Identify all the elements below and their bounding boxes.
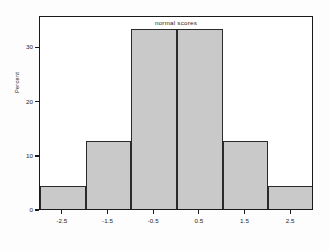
x-axis: -2.5-1.5-0.50.51.52.5 — [0, 210, 330, 251]
histogram-bar — [131, 29, 177, 209]
x-tick-label: 0.5 — [194, 216, 203, 225]
x-tick-label: -0.5 — [148, 216, 159, 225]
y-tick-mark — [35, 101, 39, 102]
histogram-bar — [268, 186, 313, 209]
x-tick-label: -2.5 — [56, 216, 67, 225]
bars-layer — [40, 17, 312, 209]
y-tick-label: 20 — [26, 97, 33, 106]
x-tick-mark — [198, 210, 199, 214]
y-axis-title: Percent — [14, 72, 20, 93]
y-tick-label: 10 — [26, 151, 33, 160]
y-tick-mark — [35, 47, 39, 48]
plot-area — [39, 16, 313, 210]
x-tick-mark — [107, 210, 108, 214]
y-tick-label: 30 — [26, 42, 33, 51]
histogram-bar — [40, 186, 86, 209]
histogram-bar — [86, 141, 132, 209]
histogram-bar — [177, 29, 223, 209]
histogram-figure: 0102030 Percent -2.5-1.5-0.50.51.52.5 no… — [0, 0, 330, 251]
x-tick-mark — [244, 210, 245, 214]
x-axis-title: normal scores — [155, 19, 197, 26]
y-tick-mark — [35, 155, 39, 156]
x-tick-mark — [61, 210, 62, 214]
x-tick-label: -1.5 — [102, 216, 113, 225]
histogram-bar — [223, 141, 269, 209]
x-tick-label: 2.5 — [286, 216, 295, 225]
x-tick-label: 1.5 — [240, 216, 249, 225]
x-tick-mark — [153, 210, 154, 214]
x-tick-mark — [290, 210, 291, 214]
